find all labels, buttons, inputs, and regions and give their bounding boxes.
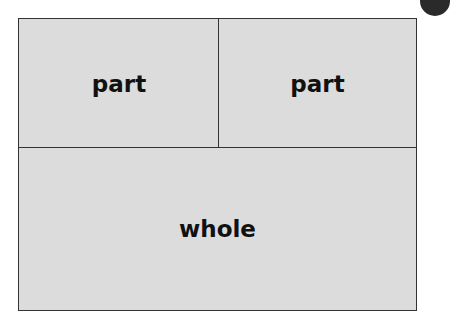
part-label: part: [92, 71, 146, 97]
part-box-left: part: [18, 18, 220, 149]
corner-shape: [420, 0, 450, 16]
whole-box: whole: [18, 147, 417, 311]
whole-label: whole: [179, 216, 256, 242]
part-label: part: [290, 71, 344, 97]
part-box-right: part: [218, 18, 417, 149]
